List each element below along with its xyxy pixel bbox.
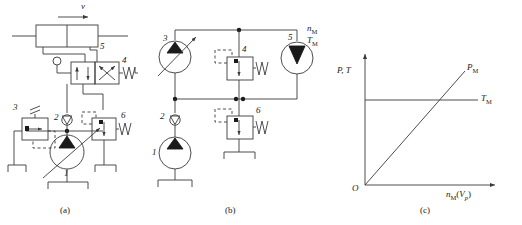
chart-series-power bbox=[365, 71, 465, 185]
b-relief4-box bbox=[227, 57, 253, 80]
b-pump3-triangle bbox=[167, 42, 183, 53]
pump1-triangle bbox=[59, 136, 75, 148]
annotation-motor-speed-sub: M bbox=[312, 28, 318, 35]
caption-panel-c: (c) bbox=[420, 205, 430, 215]
b-motor5-triangle bbox=[289, 46, 305, 64]
component-label-b-4: 4 bbox=[242, 45, 247, 54]
relief3-tank-line bbox=[14, 131, 22, 165]
x-label-paren-close: ) bbox=[468, 189, 471, 199]
b-mid-node-c1 bbox=[234, 97, 238, 101]
component-label-a-5: 5 bbox=[100, 42, 105, 51]
annotation-motor-speed: nM bbox=[307, 24, 317, 35]
power-label-sub: M bbox=[473, 67, 479, 74]
annotation-motor-torque-sub: M bbox=[312, 40, 318, 47]
relief6-block bbox=[99, 120, 103, 124]
chart-series-label-torque: TM bbox=[481, 94, 492, 105]
valve4-out-right bbox=[83, 84, 103, 110]
velocity-label: v bbox=[81, 2, 85, 11]
panel-b-group bbox=[158, 28, 313, 187]
relief3-block bbox=[25, 126, 29, 131]
b-pump1-triangle bbox=[167, 138, 183, 149]
b-relief6-spring bbox=[253, 121, 268, 134]
b-relief4-pilot-dashed bbox=[215, 50, 232, 63]
cyl-port-a-line bbox=[43, 47, 85, 62]
annotation-motor-torque: TM bbox=[307, 36, 318, 47]
chart-origin-label: O bbox=[352, 184, 359, 193]
check-valve-2-cone bbox=[63, 117, 72, 125]
chart-x-axis-label: nM(Vp) bbox=[446, 190, 471, 201]
b-check2-cone bbox=[171, 117, 180, 125]
component-label-a-1: 1 bbox=[64, 169, 69, 178]
valve4-spring bbox=[119, 67, 138, 79]
b-relief6-block bbox=[234, 118, 238, 122]
caption-panel-a: (a) bbox=[60, 205, 70, 215]
component-label-b-5: 5 bbox=[288, 33, 293, 42]
b-mid-node-c2 bbox=[241, 97, 245, 101]
figure-container: v 5 4 3 2 6 1 3 4 5 2 6 1 nM TM P, T O P… bbox=[0, 0, 522, 225]
component-label-a-3: 3 bbox=[13, 103, 18, 112]
component-label-a-2: 2 bbox=[54, 113, 59, 122]
component-label-b-6: 6 bbox=[256, 106, 261, 115]
relief6-spring bbox=[116, 123, 131, 135]
component-label-b-3: 3 bbox=[163, 34, 168, 43]
cyl-port-b-line bbox=[90, 47, 97, 62]
chart-series-label-power: PM bbox=[467, 63, 478, 74]
b-relief6-box bbox=[227, 116, 253, 139]
b-relief4-block bbox=[234, 59, 238, 63]
component-label-b-1: 1 bbox=[152, 148, 157, 157]
caption-panel-b: (b) bbox=[225, 205, 236, 215]
torque-label-sub: M bbox=[486, 98, 492, 105]
component-label-a-4: 4 bbox=[122, 56, 127, 65]
component-label-a-6: 6 bbox=[121, 111, 126, 120]
valve4-lever-knob bbox=[53, 57, 61, 65]
b-relief4-spring bbox=[253, 62, 268, 75]
b-relief6-pilot-dashed bbox=[215, 109, 232, 122]
chart-y-axis-label: P, T bbox=[337, 66, 351, 75]
component-label-b-2: 2 bbox=[160, 112, 165, 121]
schematic-svg bbox=[0, 0, 522, 225]
panel-a-group bbox=[8, 17, 138, 189]
relief3-spring bbox=[30, 106, 40, 118]
